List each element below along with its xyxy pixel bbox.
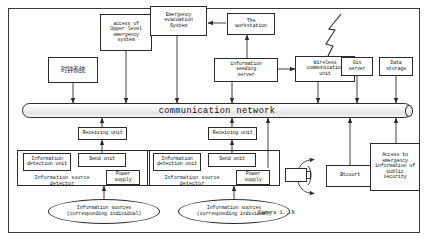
node-btcourt: Btcourt <box>326 165 374 187</box>
node-information-detection-unit-left: Information detection unit <box>23 153 71 171</box>
node-send-unit-right: Send unit <box>208 153 256 167</box>
node-send-unit-left-label: Send unit <box>80 157 124 163</box>
node-information-sending-server-label: information seeding server <box>216 62 276 79</box>
node-send-unit-left: Send unit <box>78 153 126 167</box>
node-receiving-unit-right-label: Receiving unit <box>210 131 255 137</box>
bus-right-cap <box>405 105 413 117</box>
node-upper-level-system-label: access of Upper level emergency system <box>102 22 150 44</box>
node-workstation: The workstation <box>227 13 275 35</box>
node-information-detection-unit-left-label: Information detection unit <box>25 157 69 168</box>
node-upper-level-system: access of Upper level emergency system <box>100 14 152 51</box>
node-information-detection-unit-right: Information detection unit <box>153 153 201 171</box>
node-power-supply-right: Power supply <box>236 170 270 185</box>
node-gis-server: Gis server <box>341 57 373 76</box>
camera-label-text: Camera 1...N <box>258 210 295 216</box>
node-receiving-unit-right: Receiving unit <box>208 127 257 140</box>
camera-label: Camera 1...N <box>258 205 295 216</box>
node-workstation-label: The workstation <box>229 19 273 30</box>
node-public-security-access-label: Access to emergency information of publi… <box>372 153 418 181</box>
node-btcourt-label: Btcourt <box>328 173 372 179</box>
node-data-storage-label: Data storage <box>381 61 411 72</box>
node-power-supply-left-label: Power supply <box>108 172 138 183</box>
caption-detector-left: Information source detector <box>19 171 105 187</box>
node-public-security-access: Access to emergency information of publi… <box>370 143 420 191</box>
node-gis-server-label: Gis server <box>343 61 371 72</box>
node-receiving-unit-left-label: Receiving unit <box>80 131 125 137</box>
node-data-storage: Data storage <box>379 57 413 76</box>
node-receiving-unit-left: Receiving unit <box>78 127 127 140</box>
caption-detector-right: Information source detector <box>149 171 235 187</box>
caption-detector-left-label: Information source detector <box>34 175 89 186</box>
node-send-unit-right-label: Send unit <box>210 157 254 163</box>
node-information-sources-left-label: Information sources (corresponding indiv… <box>67 206 141 217</box>
node-emergency-evacuation-system: Emergency evacuation System <box>150 6 207 36</box>
node-power-supply-right-label: Power supply <box>238 172 268 183</box>
node-information-detection-unit-right-label: Information detection unit <box>155 157 199 168</box>
node-power-supply-left: Power supply <box>106 170 140 185</box>
camera-lens-icon <box>306 171 311 179</box>
node-clock-system-label: 时钟系统 <box>50 67 96 74</box>
node-information-sending-server: information seeding server <box>214 58 278 82</box>
caption-detector-right-label: Information source detector <box>164 175 219 186</box>
communication-network-label: communication network <box>159 106 276 116</box>
node-emergency-evacuation-system-label: Emergency evacuation System <box>152 13 205 30</box>
communication-network-bus: communication network <box>22 103 412 118</box>
node-information-sources-left: Information sources (corresponding indiv… <box>48 199 160 224</box>
camera-body-icon <box>285 168 307 182</box>
node-clock-system: 时钟系统 <box>48 57 98 83</box>
diagram-canvas: 时钟系统 access of Upper level emergency sys… <box>0 0 430 241</box>
